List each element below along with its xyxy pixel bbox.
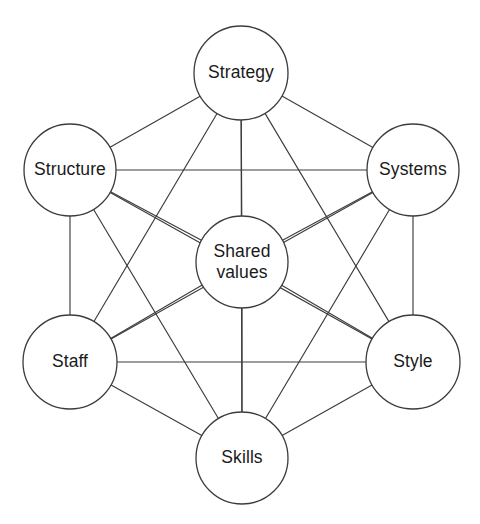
- node-label-line: values: [216, 261, 267, 281]
- node-label-line: Staff: [52, 351, 88, 371]
- node-label-style: Style: [393, 351, 432, 371]
- seven-s-diagram: StrategyStructureSystemsSharedvaluesStaf…: [0, 0, 480, 524]
- node-label-line: Systems: [379, 159, 447, 179]
- edge-staff-to-skills: [111, 385, 202, 436]
- node-structure[interactable]: Structure: [24, 124, 116, 216]
- node-shared-values[interactable]: Sharedvalues: [196, 216, 288, 308]
- node-staff[interactable]: Staff: [23, 315, 117, 409]
- edge-systems-to-skills: [265, 210, 389, 419]
- node-label-staff: Staff: [52, 351, 88, 371]
- node-label-line: Shared: [213, 240, 270, 260]
- node-systems[interactable]: Systems: [367, 124, 459, 216]
- edge-strategy-to-systems: [282, 96, 373, 147]
- node-label-line: Strategy: [208, 62, 274, 82]
- edge-structure-to-shared-values: [111, 192, 202, 241]
- edge-style-to-skills: [282, 385, 372, 435]
- node-label-systems: Systems: [379, 159, 447, 179]
- node-label-skills: Skills: [221, 447, 263, 467]
- node-label-shared-values: Sharedvalues: [213, 240, 270, 281]
- node-style[interactable]: Style: [366, 315, 460, 409]
- node-label-strategy: Strategy: [208, 62, 274, 82]
- seven-s-canvas: StrategyStructureSystemsSharedvaluesStaf…: [0, 0, 480, 524]
- node-label-line: Skills: [221, 447, 263, 467]
- node-label-line: Structure: [34, 159, 106, 179]
- node-label-line: Style: [393, 351, 432, 371]
- edge-shared-values-to-style: [282, 285, 373, 338]
- edge-shared-values-to-staff: [111, 285, 203, 338]
- edge-systems-to-shared-values: [283, 192, 373, 240]
- node-label-structure: Structure: [34, 159, 106, 179]
- node-skills[interactable]: Skills: [196, 412, 288, 504]
- nodes-group: StrategyStructureSystemsSharedvaluesStaf…: [23, 26, 460, 504]
- edge-strategy-to-structure: [110, 96, 200, 147]
- node-strategy[interactable]: Strategy: [194, 26, 288, 120]
